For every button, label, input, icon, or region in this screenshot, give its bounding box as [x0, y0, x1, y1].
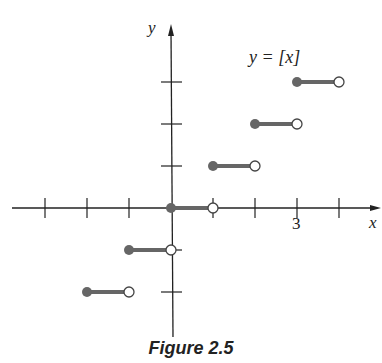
figure-caption: Figure 2.5 [0, 338, 382, 359]
y-axis-arrow-icon [168, 24, 174, 36]
closed-endpoint [292, 77, 302, 87]
closed-endpoint [124, 245, 134, 255]
closed-endpoint [250, 119, 260, 129]
open-endpoint [292, 119, 302, 129]
open-endpoint [334, 77, 344, 87]
closed-endpoint [82, 287, 92, 297]
open-endpoint [208, 203, 218, 213]
y-axis-label: y [148, 18, 156, 38]
closed-endpoint [166, 203, 176, 213]
x-tick-label-3: 3 [292, 214, 301, 234]
x-axis-label: x [369, 213, 377, 233]
y-axis [171, 30, 173, 337]
closed-endpoint [208, 161, 218, 171]
x-axis-arrow-icon [370, 205, 381, 211]
open-endpoint [124, 287, 134, 297]
floor-function-plot [0, 0, 382, 363]
equation-label: y = [x] [249, 47, 300, 68]
open-endpoint [250, 161, 260, 171]
open-endpoint [166, 245, 176, 255]
